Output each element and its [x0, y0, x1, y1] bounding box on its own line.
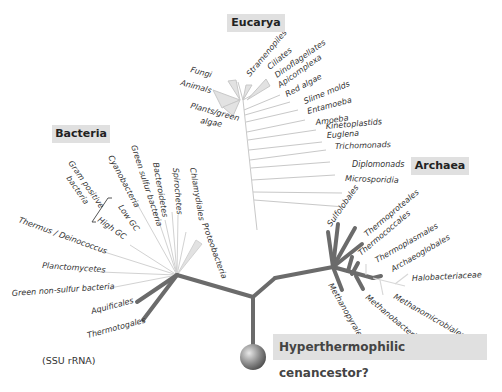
label-thermus: Thermus / Deinococcus	[17, 215, 108, 255]
label-trichomonads: Trichomonads	[335, 140, 391, 151]
label-spirochetes: Spirochetes	[171, 167, 184, 215]
label-methanopyrales: Methanopyrales	[326, 282, 366, 342]
label-algae: algae	[200, 116, 223, 129]
label-fungi: Fungi	[189, 65, 213, 80]
label-methanomicrobiales: Methanomicrobiales	[392, 292, 467, 340]
label-halobacteriaceae: Halobacteriaceae	[412, 270, 482, 283]
domain-label-archaea: Archaea	[411, 157, 469, 175]
domain-label-bacteria: Bacteria	[52, 125, 110, 143]
bacteria-branches	[98, 200, 186, 288]
label-diplomonads: Diplomonads	[352, 160, 404, 169]
domain-label-eucarya: Eucarya	[227, 14, 285, 32]
thermophile-backbone	[137, 224, 381, 345]
label-high-gc: High GC	[96, 215, 128, 241]
cenancestor-sphere	[240, 344, 266, 370]
label-planctomycetes: Planctomycetes	[42, 261, 106, 274]
label-chlamydiales: Chlamydiales	[188, 167, 206, 222]
cenancestor-label: Hyperthermophilic cenancestor?	[273, 334, 487, 360]
label-aquificales: Aquificales	[89, 296, 134, 316]
label-proteobacteria: Proteobacteria	[200, 222, 229, 280]
label-euglena: Euglena	[327, 129, 360, 140]
label-thermotogales: Thermotogales	[86, 316, 146, 340]
label-animals: Animals	[179, 78, 213, 95]
label-green-non-sulfur: Green non-sulfur bacteria	[12, 282, 115, 298]
ssu-rrna-caption: (SSU rRNA)	[42, 355, 96, 366]
